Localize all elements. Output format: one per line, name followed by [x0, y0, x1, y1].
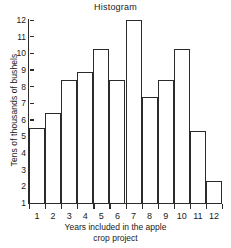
x-tick-mark — [61, 204, 62, 209]
bar — [61, 80, 77, 203]
y-tick-label: 11 — [8, 32, 26, 42]
x-tick-mark — [29, 204, 30, 209]
x-tick-mark — [45, 204, 46, 209]
x-tick-mark — [174, 204, 175, 209]
y-tick-label: 2 — [8, 181, 26, 191]
y-tick-label: 8 — [8, 82, 26, 92]
y-tick: 7 — [1, 98, 34, 108]
x-tick-mark — [190, 204, 191, 209]
y-tick: 8 — [1, 82, 34, 92]
y-tick-label: 12 — [8, 15, 26, 25]
x-tick-mark — [142, 204, 143, 209]
y-tick-mark — [30, 36, 34, 37]
y-tick-label: 10 — [8, 48, 26, 58]
x-tick-label: 12 — [204, 210, 224, 222]
bar — [109, 80, 125, 203]
x-tick-mark — [222, 204, 223, 209]
bar — [77, 72, 93, 203]
y-tick-label: 4 — [8, 148, 26, 158]
y-tick: 11 — [1, 32, 34, 42]
y-tick: 9 — [1, 65, 34, 75]
y-tick-mark — [30, 69, 34, 70]
bar — [93, 49, 109, 203]
y-tick: 12 — [1, 15, 34, 25]
bar — [29, 128, 45, 203]
x-tick-mark — [93, 204, 94, 209]
y-tick-label: 5 — [8, 131, 26, 141]
y-tick-mark — [30, 20, 34, 21]
x-tick-mark — [126, 204, 127, 209]
y-tick-mark — [30, 103, 34, 104]
y-tick: 10 — [1, 48, 34, 58]
x-axis-label: Years included in the apple crop project — [0, 222, 231, 244]
bar — [126, 20, 142, 203]
bar — [158, 80, 174, 203]
y-tick-label: 7 — [8, 98, 26, 108]
x-tick-mark — [206, 204, 207, 209]
x-axis-label-line1: Years included in the apple — [65, 222, 167, 232]
x-tick-mark — [109, 204, 110, 209]
y-tick-label: 9 — [8, 65, 26, 75]
x-tick-mark — [77, 204, 78, 209]
x-axis-label-line2: crop project — [0, 233, 231, 244]
bar — [206, 181, 222, 203]
y-tick-label: 1 — [8, 198, 26, 208]
y-tick-label: 3 — [8, 165, 26, 175]
y-tick-mark — [30, 86, 34, 87]
bar — [174, 49, 190, 203]
chart-title: Histogram — [0, 2, 231, 12]
bar — [190, 131, 206, 203]
bar — [45, 113, 61, 203]
y-tick-mark — [30, 119, 34, 120]
histogram-chart: Histogram Tens of thousands of bushels 1… — [0, 0, 231, 248]
y-tick: 6 — [1, 115, 34, 125]
y-tick-mark — [30, 53, 34, 54]
plot-area: 121110987654321 123456789101112 — [29, 20, 222, 203]
bar — [142, 97, 158, 203]
x-tick-mark — [158, 204, 159, 209]
y-tick-label: 6 — [8, 115, 26, 125]
